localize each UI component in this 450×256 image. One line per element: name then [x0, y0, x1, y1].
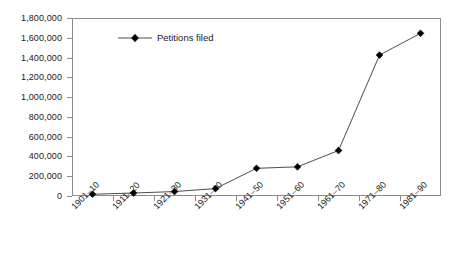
y-axis-tick-label: 600,000 [29, 132, 62, 141]
diamond-marker-icon [118, 33, 152, 43]
y-axis-tick-mark [67, 18, 72, 19]
y-axis-tick-label: 0 [57, 192, 62, 201]
y-axis-tick-label: 1,600,000 [21, 33, 62, 42]
legend-label-petitions-filed: Petitions filed [157, 33, 214, 43]
y-axis: 0200,000400,000600,000800,0001,000,0001,… [0, 0, 68, 256]
y-axis-tick-mark [67, 156, 72, 157]
y-axis-tick-label: 200,000 [29, 172, 62, 181]
y-axis-tick-label: 1,200,000 [21, 73, 62, 82]
y-axis-tick-label: 800,000 [29, 112, 62, 121]
y-axis-tick-label: 400,000 [29, 152, 62, 161]
y-axis-tick-mark [67, 137, 72, 138]
plot-area [72, 18, 441, 196]
y-axis-tick-label: 1,400,000 [21, 53, 62, 62]
y-axis-tick-mark [67, 117, 72, 118]
legend: Petitions filed [118, 33, 214, 43]
y-axis-tick-mark [67, 77, 72, 78]
y-axis-tick-mark [67, 58, 72, 59]
y-axis-tick-mark [67, 176, 72, 177]
y-axis-tick-mark [67, 196, 72, 197]
line-chart: 0200,000400,000600,000800,0001,000,0001,… [0, 0, 450, 256]
y-axis-tick-mark [67, 97, 72, 98]
y-axis-tick-label: 1,000,000 [21, 93, 62, 102]
y-axis-tick-label: 1,800,000 [21, 14, 62, 23]
y-axis-tick-mark [67, 38, 72, 39]
